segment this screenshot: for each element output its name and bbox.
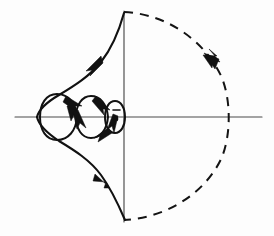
spiral-loops-group	[40, 94, 125, 142]
infinite-arc-path	[124, 12, 229, 220]
nyquist-diagram-canvas	[0, 0, 274, 236]
infinite-radius-arc-dashed	[124, 12, 229, 220]
axes-group	[15, 11, 262, 222]
nyquist-figure	[0, 0, 274, 236]
arrow-upper-locus	[86, 56, 103, 76]
critical-point-dot	[114, 117, 119, 122]
